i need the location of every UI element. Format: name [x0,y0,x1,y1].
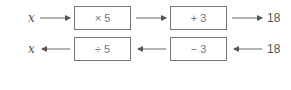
forward-op-box-1: × 5 [74,6,131,30]
inverse-output-x: x [28,42,35,56]
inverse-input-value: 18 [267,42,280,56]
forward-output-value: 18 [267,11,280,25]
forward-op-box-2: + 3 [170,6,227,30]
inverse-op-box-1: ÷ 5 [74,37,131,61]
arrows-layer [0,0,291,90]
inverse-op-box-2: − 3 [170,37,227,61]
